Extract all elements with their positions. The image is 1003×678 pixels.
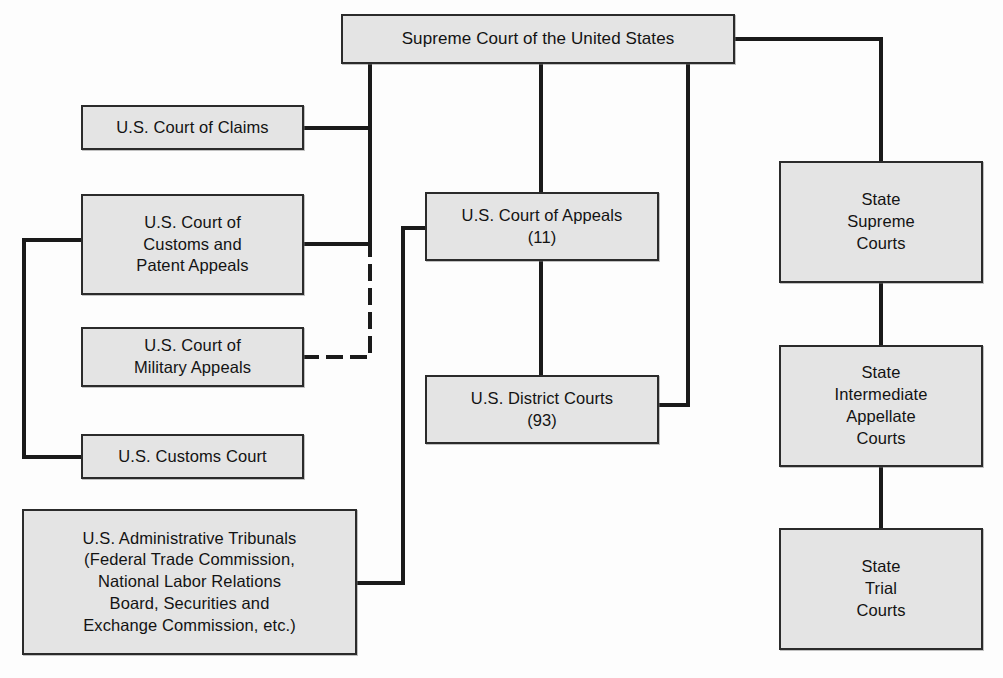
- node-label-customs-court: U.S. Customs Court: [112, 446, 273, 468]
- node-label-administrative-tribunals: U.S. Administrative Tribunals (Federal T…: [77, 528, 303, 637]
- connector-edge-supreme-to-federal-left-trunk: [304, 64, 370, 244]
- court-system-diagram: Supreme Court of the United StatesU.S. C…: [0, 0, 1003, 678]
- node-court-customs-patent-appeals[interactable]: U.S. Court of Customs and Patent Appeals: [81, 194, 304, 295]
- node-label-court-of-claims: U.S. Court of Claims: [110, 117, 274, 139]
- node-court-of-claims[interactable]: U.S. Court of Claims: [81, 105, 304, 150]
- connector-edge-military-appeals-dashed: [304, 247, 370, 357]
- node-label-court-military-appeals: U.S. Court of Military Appeals: [128, 335, 257, 379]
- connector-edge-admin-tribunals-to-court-of-appeals: [357, 228, 425, 583]
- node-label-supreme-court-us: Supreme Court of the United States: [396, 28, 681, 50]
- node-court-military-appeals[interactable]: U.S. Court of Military Appeals: [81, 327, 304, 387]
- node-label-district-courts: U.S. District Courts (93): [465, 388, 619, 432]
- node-state-trial-courts[interactable]: State Trial Courts: [779, 528, 983, 650]
- node-state-supreme-courts[interactable]: State Supreme Courts: [779, 161, 983, 283]
- node-court-of-appeals[interactable]: U.S. Court of Appeals (11): [425, 192, 659, 261]
- node-supreme-court-us[interactable]: Supreme Court of the United States: [341, 14, 735, 64]
- node-label-state-supreme-courts: State Supreme Courts: [841, 189, 921, 254]
- connector-edge-customs-court-to-patent-appeals: [24, 240, 81, 457]
- node-district-courts[interactable]: U.S. District Courts (93): [425, 375, 659, 444]
- connector-edge-supreme-to-state-supreme: [735, 39, 881, 161]
- node-customs-court[interactable]: U.S. Customs Court: [81, 434, 304, 479]
- node-state-intermediate-appellate-courts[interactable]: State Intermediate Appellate Courts: [779, 345, 983, 467]
- node-label-state-trial-courts: State Trial Courts: [850, 556, 911, 621]
- node-label-state-intermediate-appellate-courts: State Intermediate Appellate Courts: [829, 362, 934, 449]
- connector-edge-district-courts-to-supreme: [659, 64, 688, 405]
- node-label-court-customs-patent-appeals: U.S. Court of Customs and Patent Appeals: [130, 212, 254, 277]
- node-label-court-of-appeals: U.S. Court of Appeals (11): [456, 205, 629, 249]
- node-administrative-tribunals[interactable]: U.S. Administrative Tribunals (Federal T…: [22, 509, 357, 655]
